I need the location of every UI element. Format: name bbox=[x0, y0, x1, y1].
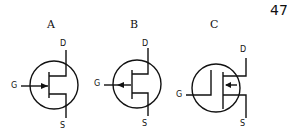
symbol-a-source-lead bbox=[49, 94, 66, 118]
symbol-b-source-lead bbox=[132, 93, 148, 116]
symbol-b-gate-label: G bbox=[94, 79, 100, 88]
symbol-b-arrow-icon bbox=[117, 82, 124, 88]
symbol-a-gate-label: G bbox=[11, 81, 17, 90]
symbol-b-drain-label: D bbox=[142, 39, 148, 48]
symbol-a: A G D S bbox=[11, 18, 78, 130]
symbol-a-envelope bbox=[30, 61, 78, 109]
symbol-c: C G D S bbox=[176, 18, 246, 128]
symbol-b: B G D S bbox=[94, 18, 161, 128]
transistor-symbols-diagram: 47 A G D S B G D S C G D S bbox=[0, 0, 287, 133]
symbol-a-source-label: S bbox=[60, 121, 65, 130]
symbol-c-source-lead bbox=[223, 95, 246, 118]
symbol-c-envelope bbox=[192, 64, 240, 112]
symbol-c-gate-label: G bbox=[176, 90, 182, 99]
symbol-c-gate-lead bbox=[186, 70, 211, 95]
symbol-a-label: A bbox=[46, 18, 56, 31]
symbol-a-arrow-icon bbox=[41, 83, 48, 89]
symbol-c-source-label: S bbox=[240, 119, 245, 128]
symbol-c-drain-label: D bbox=[240, 45, 246, 54]
symbol-c-arrow-icon bbox=[225, 82, 231, 88]
symbol-c-label: C bbox=[210, 18, 218, 31]
page-number: 47 bbox=[270, 2, 287, 18]
symbol-b-source-label: S bbox=[142, 119, 147, 128]
symbol-b-label: B bbox=[130, 18, 138, 31]
symbol-a-drain-label: D bbox=[60, 39, 66, 48]
